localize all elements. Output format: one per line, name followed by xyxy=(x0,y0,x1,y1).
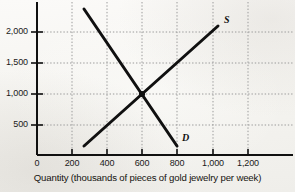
supply-curve-label: S xyxy=(224,14,230,25)
supply-demand-chart: 2,000 1,500 1,000 500 0 200 400 600 800 … xyxy=(0,0,295,192)
y-tick-label-2000: 2,000 xyxy=(0,26,28,36)
y-tick-label-500: 500 xyxy=(0,119,28,129)
y-tick-label-1500: 1,500 xyxy=(0,57,28,67)
x-tick-label-400: 400 xyxy=(93,158,121,168)
x-tick-label-800: 800 xyxy=(163,158,191,168)
x-axis-title: Quantity (thousands of pieces of gold je… xyxy=(0,172,295,183)
demand-curve-label: D xyxy=(182,132,189,143)
x-tick-label-200: 200 xyxy=(58,158,86,168)
x-tick-label-0: 0 xyxy=(27,158,47,168)
equilibrium-point xyxy=(139,91,145,97)
supply-curve xyxy=(84,26,218,146)
x-tick-label-600: 600 xyxy=(128,158,156,168)
x-tick-label-1000: 1,000 xyxy=(196,158,230,168)
y-tick-label-1000: 1,000 xyxy=(0,88,28,98)
x-tick-label-1200: 1,200 xyxy=(231,158,265,168)
horizontal-gridlines xyxy=(37,32,293,125)
